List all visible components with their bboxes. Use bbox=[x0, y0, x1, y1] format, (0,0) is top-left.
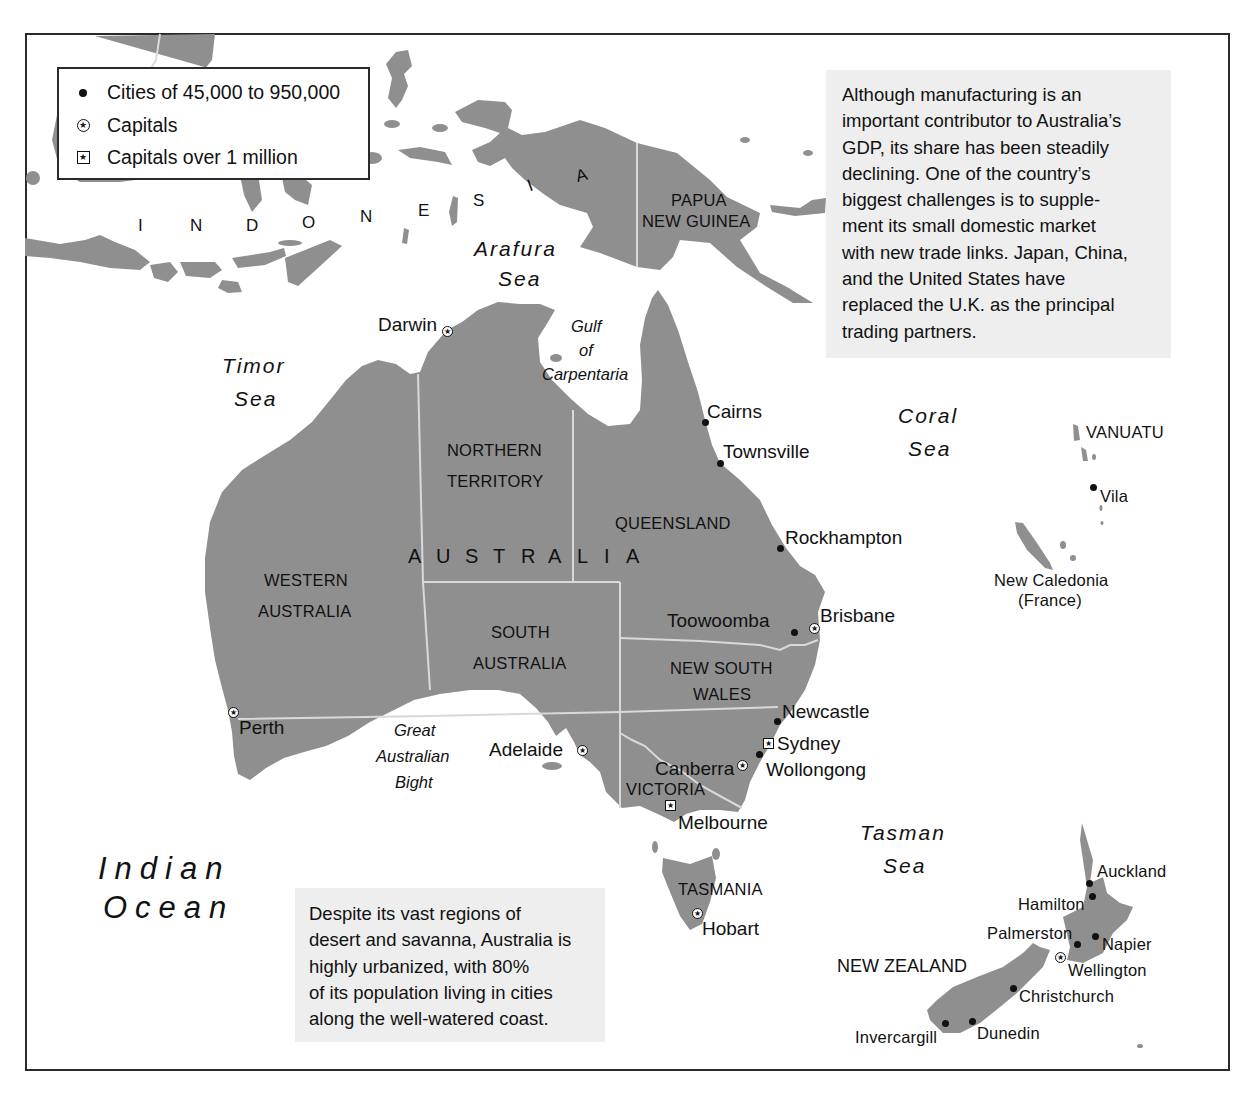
note-line: Despite its vast regions of bbox=[309, 901, 605, 927]
great-australian-bight-label: Bight bbox=[395, 774, 433, 791]
legend-item-capitals-over-1m: ★ Capitals over 1 million bbox=[73, 146, 298, 169]
tasmania-label: TASMANIA bbox=[678, 881, 763, 898]
coral-sea-label: Sea bbox=[908, 438, 951, 459]
capital-circle-star-icon[interactable]: ★ bbox=[1055, 952, 1066, 963]
city-label-darwin[interactable]: Darwin bbox=[378, 315, 437, 334]
note-line: of its population living in cities bbox=[309, 980, 605, 1006]
city-label-christchurch[interactable]: Christchurch bbox=[1019, 988, 1114, 1005]
city-dot-icon[interactable] bbox=[791, 629, 798, 636]
arafura-sea-label: Arafura bbox=[474, 238, 557, 259]
city-dot-icon[interactable] bbox=[1089, 893, 1096, 900]
australia-label-letter: R bbox=[521, 545, 535, 568]
legend-label: Cities of 45,000 to 950,000 bbox=[107, 81, 340, 104]
city-label-dunedin[interactable]: Dunedin bbox=[977, 1025, 1040, 1042]
south-australia-label: AUSTRALIA bbox=[473, 655, 567, 672]
indonesia-label-letter: I bbox=[138, 216, 143, 236]
city-dot-icon[interactable] bbox=[969, 1018, 976, 1025]
australia-label-letter: U bbox=[436, 545, 450, 568]
indonesia-label-letter: N bbox=[190, 216, 202, 236]
note-line: GDP, its share has been steadily bbox=[842, 135, 1171, 161]
city-label-cairns[interactable]: Cairns bbox=[707, 402, 762, 421]
indonesia-label-letter: D bbox=[246, 216, 258, 236]
australia-label-letter: A bbox=[548, 545, 561, 568]
city-label-perth[interactable]: Perth bbox=[239, 718, 284, 737]
capital-circle-star-icon[interactable]: ★ bbox=[737, 760, 748, 771]
manufacturing-note: Although manufacturing is an important c… bbox=[826, 70, 1171, 358]
city-dot-icon[interactable] bbox=[774, 718, 781, 725]
coral-sea-label: Coral bbox=[898, 405, 958, 426]
city-label-newcastle[interactable]: Newcastle bbox=[782, 702, 870, 721]
gulf-of-carpentaria-label: of bbox=[579, 342, 593, 359]
victoria-label: VICTORIA bbox=[626, 781, 705, 798]
note-line: trading partners. bbox=[842, 319, 1171, 345]
western-australia-label: AUSTRALIA bbox=[258, 603, 352, 620]
urbanization-note: Despite its vast regions of desert and s… bbox=[295, 888, 605, 1042]
capital-square-star-icon[interactable]: ★ bbox=[665, 800, 676, 811]
city-label-adelaide[interactable]: Adelaide bbox=[489, 740, 563, 759]
timor-sea-label: Timor bbox=[222, 355, 285, 376]
gulf-of-carpentaria-label: Gulf bbox=[571, 318, 601, 335]
note-line: ment its small domestic market bbox=[842, 213, 1171, 239]
city-dot-icon[interactable] bbox=[942, 1020, 949, 1027]
new-caledonia-label: New Caledonia bbox=[994, 572, 1109, 589]
capital-circle-star-icon[interactable]: ★ bbox=[809, 623, 820, 634]
timor-sea-label: Sea bbox=[234, 388, 277, 409]
capital-circle-star-icon: ★ bbox=[73, 119, 93, 132]
note-line: Although manufacturing is an bbox=[842, 82, 1171, 108]
capital-circle-star-icon[interactable]: ★ bbox=[577, 745, 588, 756]
city-label-palmerston[interactable]: Palmerston bbox=[987, 925, 1072, 942]
city-label-sydney[interactable]: Sydney bbox=[777, 734, 840, 753]
papua-new-guinea-label: NEW GUINEA bbox=[642, 213, 750, 230]
vanuatu-label: VANUATU bbox=[1086, 424, 1164, 441]
new-south-wales-label: NEW SOUTH bbox=[670, 660, 773, 677]
legend-item-capitals: ★ Capitals bbox=[73, 114, 177, 137]
city-label-hamilton[interactable]: Hamilton bbox=[1018, 896, 1085, 913]
australia-label-letter: I bbox=[604, 545, 610, 568]
city-label-napier[interactable]: Napier bbox=[1102, 936, 1152, 953]
capital-circle-star-icon[interactable]: ★ bbox=[442, 326, 453, 337]
city-label-rockhampton[interactable]: Rockhampton bbox=[785, 528, 902, 547]
city-label-canberra[interactable]: Canberra bbox=[655, 759, 734, 778]
capital-square-star-icon[interactable]: ★ bbox=[763, 738, 774, 749]
note-line: important contributor to Australia’s bbox=[842, 108, 1171, 134]
indonesia-label-letter: O bbox=[302, 213, 315, 233]
city-label-brisbane[interactable]: Brisbane bbox=[820, 606, 895, 625]
city-label-toowoomba[interactable]: Toowoomba bbox=[667, 611, 769, 630]
arafura-sea-label: Sea bbox=[498, 268, 541, 289]
city-label-vila[interactable]: Vila bbox=[1100, 488, 1128, 505]
south-australia-label: SOUTH bbox=[491, 624, 550, 641]
new-zealand-label: NEW ZEALAND bbox=[837, 957, 967, 975]
city-label-auckland[interactable]: Auckland bbox=[1097, 863, 1166, 880]
map-legend: Cities of 45,000 to 950,000 ★ Capitals ★… bbox=[57, 67, 370, 180]
java-shape bbox=[25, 235, 150, 270]
note-line: highly urbanized, with 80% bbox=[309, 954, 605, 980]
city-label-townsville[interactable]: Townsville bbox=[723, 442, 810, 461]
city-dot-icon[interactable] bbox=[756, 751, 763, 758]
city-dot-icon[interactable] bbox=[1074, 941, 1081, 948]
indonesia-label-letter: E bbox=[418, 201, 429, 221]
city-dot-icon[interactable] bbox=[777, 545, 784, 552]
northern-territory-label: NORTHERN bbox=[447, 442, 542, 459]
northern-territory-label: TERRITORY bbox=[447, 473, 544, 490]
city-dot-icon[interactable] bbox=[1010, 985, 1017, 992]
tasman-sea-label: Tasman bbox=[860, 822, 946, 843]
australia-label-letter: A bbox=[408, 545, 421, 568]
city-dot-icon[interactable] bbox=[1090, 484, 1097, 491]
legend-label: Capitals over 1 million bbox=[107, 146, 298, 169]
city-label-melbourne[interactable]: Melbourne bbox=[678, 813, 768, 832]
great-australian-bight-label: Australian bbox=[376, 748, 449, 765]
city-dot-icon[interactable] bbox=[1086, 880, 1093, 887]
indian-ocean-label: Ocean bbox=[103, 892, 234, 923]
australia-label-letter: L bbox=[577, 545, 588, 568]
capital-circle-star-icon[interactable]: ★ bbox=[228, 707, 239, 718]
tasman-sea-label: Sea bbox=[883, 855, 926, 876]
city-label-wollongong[interactable]: Wollongong bbox=[766, 760, 866, 779]
indonesia-label-letter: S bbox=[473, 191, 484, 211]
australia-label-letter: T bbox=[493, 545, 505, 568]
city-label-hobart[interactable]: Hobart bbox=[702, 919, 759, 938]
gulf-of-carpentaria-label: Carpentaria bbox=[542, 366, 628, 383]
city-label-wellington[interactable]: Wellington bbox=[1068, 962, 1147, 979]
city-dot-icon[interactable] bbox=[1092, 933, 1099, 940]
indian-ocean-label: Indian bbox=[98, 853, 230, 884]
city-label-invercargill[interactable]: Invercargill bbox=[855, 1029, 937, 1046]
